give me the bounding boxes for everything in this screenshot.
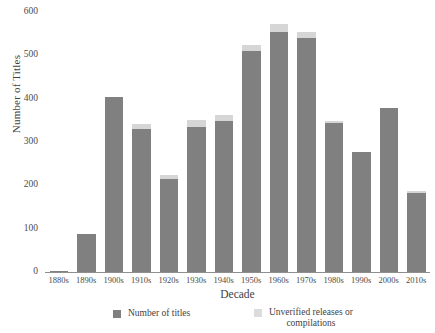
bar-group[interactable] [270,24,289,272]
bar-group[interactable] [407,191,426,272]
x-tick-label: 1900s [100,274,128,287]
bar-group[interactable] [297,32,316,273]
bar-segment-unverified[interactable] [270,24,289,32]
x-tick-label: 2000s [375,274,403,287]
y-axis-ticks: 0100200300400500600 [8,0,38,333]
bar-segment-titles[interactable] [77,234,96,272]
y-tick-label: 500 [12,50,38,60]
legend-item[interactable]: Number of titles [113,308,190,319]
bar-segment-titles[interactable] [242,51,261,272]
bar-group[interactable] [160,175,179,272]
bar-segment-titles[interactable] [50,271,69,272]
bar-segment-titles[interactable] [160,179,179,272]
legend-item[interactable]: Unverified releases or compilations [254,307,353,329]
x-tick-label: 1920s [155,274,183,287]
x-tick-label: 1950s [238,274,266,287]
y-tick-label: 100 [12,224,38,234]
bar-segment-titles[interactable] [215,121,234,272]
x-tick-label: 1910s [128,274,156,287]
bar-group[interactable] [132,124,151,272]
bar-segment-titles[interactable] [352,152,371,272]
x-tick-label: 1980s [320,274,348,287]
bar-group[interactable] [242,45,261,273]
bar-segment-titles[interactable] [132,129,151,272]
chart-legend: Number of titlesUnverified releases or c… [0,306,435,333]
y-tick-label: 0 [12,267,38,277]
x-axis-ticks: 1880s1890s1900s1910s1920s1930s1940s1950s… [45,274,430,288]
bar-segment-titles[interactable] [380,108,399,272]
x-tick-label: 1930s [183,274,211,287]
legend-swatch-icon [113,310,121,318]
bar-group[interactable] [50,271,69,272]
x-axis-line [45,272,430,273]
y-tick-label: 400 [12,94,38,104]
x-tick-label: 1960s [265,274,293,287]
x-tick-label: 1940s [210,274,238,287]
bar-segment-titles[interactable] [325,123,344,272]
bar-segment-titles[interactable] [105,97,124,273]
bar-group[interactable] [105,97,124,273]
bar-segment-titles[interactable] [297,38,316,272]
legend-label: Number of titles [128,308,190,319]
plot-area [45,12,430,272]
bar-group[interactable] [325,121,344,272]
bar-group[interactable] [215,115,234,272]
bar-group[interactable] [380,108,399,272]
bar-group[interactable] [77,234,96,272]
bar-segment-titles[interactable] [270,32,289,273]
x-tick-label: 1990s [348,274,376,287]
bar-segment-titles[interactable] [407,193,426,272]
y-tick-label: 300 [12,137,38,147]
bar-group[interactable] [187,120,206,272]
legend-label: Unverified releases or compilations [269,307,353,329]
x-tick-label: 2010s [403,274,431,287]
x-tick-label: 1880s [45,274,73,287]
x-tick-label: 1970s [293,274,321,287]
legend-swatch-icon [254,309,262,317]
y-tick-label: 200 [12,180,38,190]
bar-group[interactable] [352,152,371,272]
x-axis-title: Decade [45,288,430,300]
x-tick-label: 1890s [73,274,101,287]
y-tick-label: 600 [12,7,38,17]
bar-segment-titles[interactable] [187,127,206,272]
bar-chart: Number of Titles 0100200300400500600 188… [0,0,435,333]
